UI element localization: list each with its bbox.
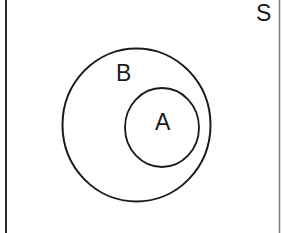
venn-diagram: S B A xyxy=(0,0,282,233)
venn-svg xyxy=(0,0,282,233)
set-b-label: B xyxy=(116,62,131,85)
set-b-circle xyxy=(63,49,211,202)
universal-set-label: S xyxy=(256,2,271,25)
set-a-label: A xyxy=(155,111,170,134)
